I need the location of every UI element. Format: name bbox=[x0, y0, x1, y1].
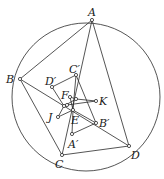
label-ap: A′ bbox=[67, 138, 79, 151]
point-b bbox=[18, 77, 21, 80]
segment-B-C bbox=[20, 79, 62, 155]
label-d: D bbox=[130, 149, 140, 162]
geometry-diagram: ABCDC′D′B′A′EFKJ bbox=[0, 0, 164, 179]
label-j: J bbox=[46, 111, 53, 124]
point-e bbox=[71, 108, 74, 111]
point-f bbox=[68, 95, 71, 98]
point-p2 bbox=[65, 103, 68, 106]
point-j bbox=[56, 115, 59, 118]
points bbox=[18, 18, 130, 156]
segments bbox=[20, 20, 129, 155]
label-a: A bbox=[87, 6, 96, 19]
label-b: B bbox=[5, 73, 14, 86]
segment-A-C bbox=[62, 20, 92, 155]
point-d bbox=[127, 144, 130, 147]
segment-F-E bbox=[70, 97, 73, 110]
point-k bbox=[94, 99, 97, 102]
label-dp: D′ bbox=[44, 75, 57, 88]
label-e: E bbox=[70, 114, 79, 127]
point-ap bbox=[70, 132, 73, 135]
label-k: K bbox=[98, 95, 108, 108]
label-f: F bbox=[60, 89, 69, 102]
point-bp bbox=[94, 121, 97, 124]
point-f2 bbox=[74, 97, 77, 100]
point-c bbox=[60, 153, 63, 156]
label-c: C bbox=[55, 158, 64, 171]
label-bp: B′ bbox=[98, 117, 110, 130]
label-cp: C′ bbox=[69, 63, 80, 76]
